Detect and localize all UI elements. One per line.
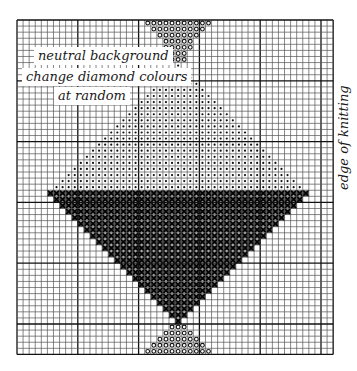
label-change-diamond-colours: change diamond colours bbox=[22, 68, 191, 86]
label-neutral-background: neutral background bbox=[34, 47, 173, 65]
label-edge-of-knitting: edge of knitting bbox=[336, 85, 351, 190]
label-at-random: at random bbox=[54, 87, 130, 105]
